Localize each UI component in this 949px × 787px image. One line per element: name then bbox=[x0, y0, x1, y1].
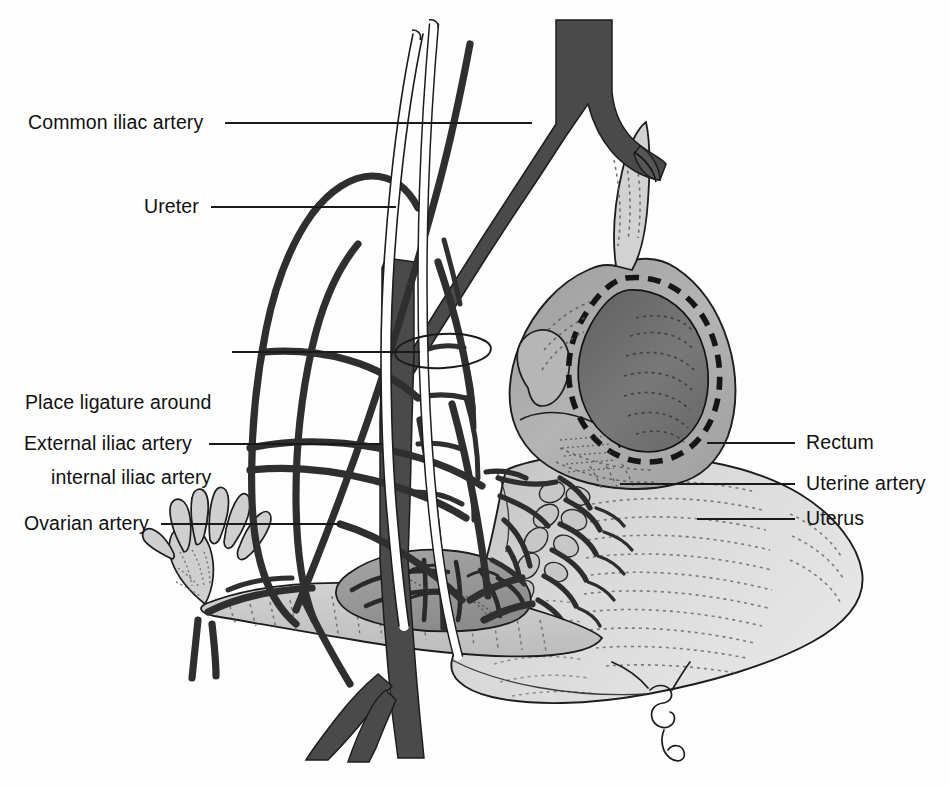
label-uterus: Uterus bbox=[806, 506, 864, 531]
label-uterine-artery: Uterine artery bbox=[806, 471, 926, 496]
label-ligature-line2: internal iliac artery bbox=[25, 465, 211, 490]
illustration-canvas: Common iliac artery Ureter Place ligatur… bbox=[0, 0, 949, 787]
label-external-iliac-artery: External iliac artery bbox=[24, 431, 192, 456]
label-ligature-line1: Place ligature around bbox=[25, 390, 211, 415]
label-rectum: Rectum bbox=[806, 430, 874, 455]
rectum-body bbox=[510, 122, 736, 490]
label-ovarian-artery: Ovarian artery bbox=[24, 511, 149, 536]
label-common-iliac-artery: Common iliac artery bbox=[28, 110, 203, 135]
label-ureter: Ureter bbox=[144, 194, 199, 219]
